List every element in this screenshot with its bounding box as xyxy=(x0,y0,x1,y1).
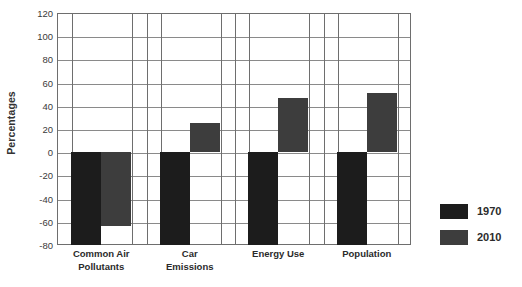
category-label-line: Car xyxy=(142,248,238,261)
y-axis-tick-label: 0 xyxy=(7,147,57,158)
y-axis-tick-label: -80 xyxy=(7,240,57,251)
gridline-horizontal xyxy=(58,60,410,61)
y-axis-tick-label: 100 xyxy=(7,31,57,42)
gridline-horizontal xyxy=(58,200,410,201)
gridline-horizontal xyxy=(58,130,410,131)
gridline-vertical xyxy=(221,14,222,244)
gridline-vertical xyxy=(398,14,399,244)
legend-swatch xyxy=(440,230,468,245)
gridline-horizontal xyxy=(58,107,410,108)
gridline-vertical xyxy=(147,14,148,244)
x-axis-category-labels: Common AirPollutantsCarEmissionsEnergy U… xyxy=(57,248,411,287)
y-axis-tick-label: 40 xyxy=(7,100,57,111)
gridline-vertical xyxy=(324,14,325,244)
y-axis-tick-label: 60 xyxy=(7,77,57,88)
legend-swatch xyxy=(440,204,468,219)
category-label-line: Common Air xyxy=(53,248,149,261)
legend-item-2010[interactable]: 2010 xyxy=(440,226,520,248)
legend-label: 2010 xyxy=(477,231,501,243)
legend-label: 1970 xyxy=(477,205,501,217)
gridline-horizontal xyxy=(58,153,410,154)
gridline-horizontal xyxy=(58,176,410,177)
y-axis-tick-label: -40 xyxy=(7,193,57,204)
category-label-line: Energy Use xyxy=(230,248,326,261)
y-axis-tick-label: 80 xyxy=(7,54,57,65)
legend-item-1970[interactable]: 1970 xyxy=(440,200,520,222)
x-axis-category-label: CarEmissions xyxy=(142,248,238,273)
chart-legend: 19702010 xyxy=(440,200,520,252)
plot-area xyxy=(57,13,411,245)
gridline-horizontal xyxy=(58,37,410,38)
gridline-vertical xyxy=(249,14,250,244)
bar-chart: Percentages 120100806040200-20-40-60-80 … xyxy=(0,0,522,287)
gridline-vertical xyxy=(161,14,162,244)
y-axis-tick-label: 120 xyxy=(7,8,57,19)
gridline-horizontal xyxy=(58,84,410,85)
gridline-vertical xyxy=(132,14,133,244)
category-label-line: Pollutants xyxy=(53,261,149,274)
y-axis-tick-labels: 120100806040200-20-40-60-80 xyxy=(0,13,57,245)
gridline-vertical xyxy=(309,14,310,244)
y-axis-tick-label: -60 xyxy=(7,216,57,227)
gridline-vertical xyxy=(235,14,236,244)
category-label-line: Emissions xyxy=(142,261,238,274)
gridline-horizontal xyxy=(58,223,410,224)
category-label-line: Population xyxy=(319,248,415,261)
x-axis-category-label: Population xyxy=(319,248,415,261)
x-axis-category-label: Common AirPollutants xyxy=(53,248,149,273)
x-axis-category-label: Energy Use xyxy=(230,248,326,261)
gridline-vertical xyxy=(72,14,73,244)
gridline-vertical xyxy=(338,14,339,244)
y-axis-tick-label: 20 xyxy=(7,124,57,135)
y-axis-tick-label: -20 xyxy=(7,170,57,181)
